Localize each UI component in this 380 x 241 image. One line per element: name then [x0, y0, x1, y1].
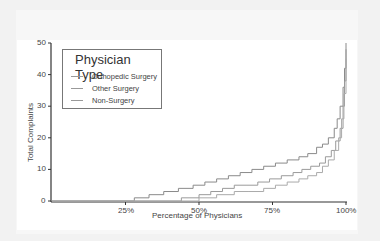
x-axis-label: Percentage of Physicians: [152, 211, 242, 220]
y-tick-30: 30: [37, 101, 46, 110]
x-tick-25: 25%: [118, 206, 134, 215]
legend-label: Other Surgery: [92, 84, 139, 93]
y-tick-0: 0: [41, 196, 45, 205]
y-axis-label: Total Complaints: [26, 93, 35, 173]
legend-item-other-surgery: Other Surgery: [71, 84, 139, 93]
legend-label: Non-Surgery: [92, 96, 135, 105]
legend-swatch: [71, 76, 83, 77]
x-tick-75: 75%: [264, 206, 280, 215]
y-tick-20: 20: [37, 133, 46, 142]
legend-item-orthopedic: Orthopedic Surgery: [71, 72, 157, 81]
y-tick-50: 50: [37, 38, 46, 47]
legend-swatch: [71, 100, 83, 101]
legend-swatch: [71, 88, 83, 89]
step-chart: [0, 0, 380, 241]
y-tick-40: 40: [37, 70, 46, 79]
legend: Physician Type Orthopedic Surgery Other …: [62, 49, 162, 109]
y-tick-10: 10: [37, 164, 46, 173]
legend-item-non-surgery: Non-Surgery: [71, 96, 135, 105]
x-tick-100: 100%: [336, 206, 356, 215]
legend-label: Orthopedic Surgery: [92, 72, 157, 81]
